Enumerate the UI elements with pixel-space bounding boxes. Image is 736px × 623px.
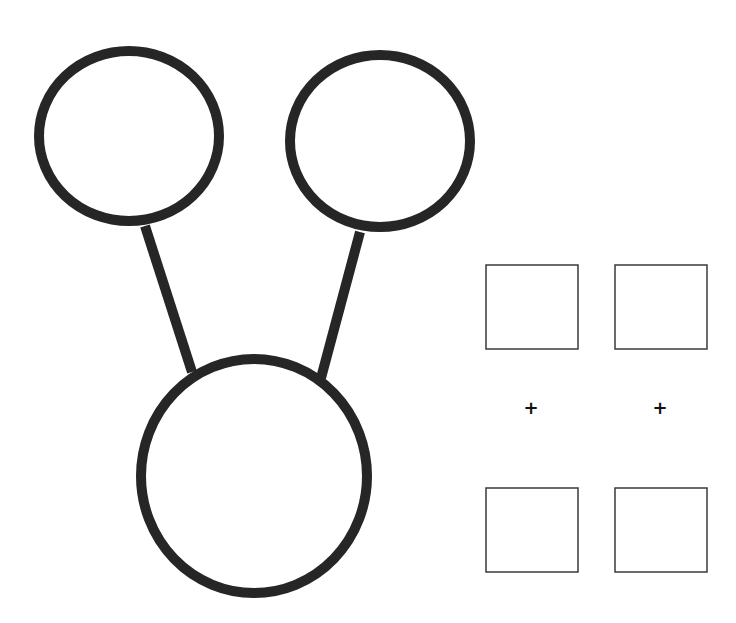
plus-left-icon: + [523,397,538,418]
box-bottom-right [615,488,707,572]
box-top-left [486,265,578,349]
circle-node-top-left [39,51,219,221]
edge-top-left-to-bottom [145,226,192,372]
plus-marks: ++ [523,397,667,418]
plus-right-icon: + [652,397,667,418]
tree-nodes [39,51,470,593]
box-bottom-left [486,488,578,572]
diagram-canvas: ++ [0,0,736,623]
circle-node-top-right [290,55,470,227]
edge-top-right-to-bottom [321,232,360,378]
box-grid [486,265,707,572]
circle-node-bottom [141,359,367,593]
box-top-right [615,265,707,349]
